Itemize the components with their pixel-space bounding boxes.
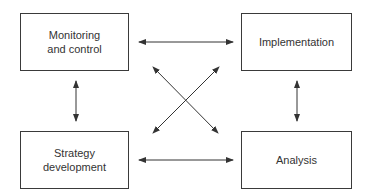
node-label: Strategy development (43, 146, 106, 174)
node-implementation: Implementation (241, 13, 352, 71)
node-label: Monitoring and control (47, 28, 101, 56)
node-monitoring-and-control: Monitoring and control (20, 13, 129, 71)
node-label: Analysis (276, 153, 317, 167)
node-label: Implementation (259, 35, 334, 49)
node-analysis: Analysis (241, 131, 352, 189)
node-strategy-development: Strategy development (20, 131, 129, 189)
